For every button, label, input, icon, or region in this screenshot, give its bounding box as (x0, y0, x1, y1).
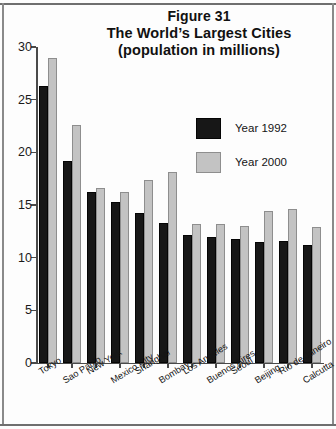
legend-entry-year-1992: Year 1992 (196, 118, 326, 152)
bar-calcutta-1992 (303, 245, 312, 363)
figure-chart: Figure 31 The World’s Largest Cities (po… (0, 0, 336, 429)
y-tick-label: 10 (2, 252, 32, 264)
y-tick-label: 25 (2, 94, 32, 106)
x-label-beijing: Beijing (253, 362, 282, 385)
legend-label-1992: Year 1992 (235, 122, 287, 134)
bar-buenos-aires-1992 (207, 237, 216, 363)
legend-label-2000: Year 2000 (235, 156, 287, 168)
bar-beijing-1992 (255, 242, 264, 363)
y-tick-label: 15 (2, 199, 32, 211)
bar-los-angeles-2000 (192, 224, 201, 363)
y-tick-label: 5 (2, 304, 32, 316)
bar-mexico-city-1992 (111, 202, 120, 363)
bar-new-york-1992 (87, 192, 96, 363)
legend-entry-year-2000: Year 2000 (196, 152, 326, 186)
bar-bombay-2000 (168, 172, 177, 363)
bar-seoul-2000 (240, 226, 249, 363)
bar-beijing-2000 (264, 211, 273, 363)
bar-tokyo-2000 (48, 58, 57, 363)
bar-new-york-2000 (96, 188, 105, 363)
bar-rio-de-janeiro-1992 (279, 241, 288, 363)
bar-los-angeles-1992 (183, 235, 192, 364)
bar-shanghai-1992 (135, 213, 144, 363)
bar-tokyo-1992 (39, 86, 48, 363)
chart-legend: Year 1992 Year 2000 (196, 118, 326, 186)
x-axis-category-labels: TokyoSao PauloNew YorkMexico CityShangha… (36, 368, 336, 429)
bar-rio-de-janeiro-2000 (288, 209, 297, 363)
bar-group-container (36, 47, 324, 363)
bar-shanghai-2000 (144, 180, 153, 363)
legend-swatch-icon-2000 (196, 152, 221, 173)
page-rule-top (0, 3, 336, 5)
bar-sao-paulo-2000 (72, 125, 81, 363)
legend-swatch-icon-1992 (196, 118, 221, 139)
bar-sao-paulo-1992 (63, 161, 72, 363)
plot-area: 051015202530 (36, 47, 324, 364)
chart-title-line-2: The World’s Largest Cities (70, 25, 328, 42)
bar-mexico-city-2000 (120, 192, 129, 363)
y-tick-label: 30 (2, 41, 32, 53)
y-tick-label: 0 (2, 357, 32, 369)
bar-bombay-1992 (159, 223, 168, 363)
chart-title-line-1: Figure 31 (70, 8, 328, 25)
bar-seoul-1992 (231, 239, 240, 363)
y-tick-label: 20 (2, 146, 32, 158)
